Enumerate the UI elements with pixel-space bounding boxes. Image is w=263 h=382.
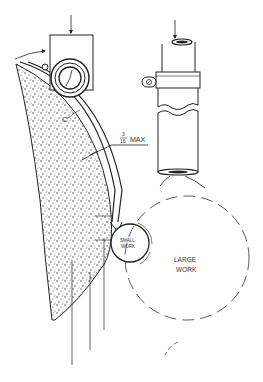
callout-c-label: C bbox=[62, 115, 68, 124]
small-work-label: SMALL bbox=[120, 238, 135, 243]
grinding-wheel-coolant-diagram: C 3 16 MAX SMALL WORK LARGE WORK bbox=[0, 0, 263, 382]
dimension-max-label: MAX bbox=[130, 136, 146, 143]
small-work-label-2: WORK bbox=[121, 244, 135, 249]
large-work-label-2: WORK bbox=[176, 266, 197, 273]
small-work-circle bbox=[111, 224, 149, 262]
rotation-arrow bbox=[165, 342, 178, 355]
dimension-fraction-denominator: 16 bbox=[120, 138, 126, 144]
grinding-wheel bbox=[16, 64, 112, 320]
large-work-label: LARGE bbox=[174, 256, 197, 263]
airflow-arrow bbox=[15, 51, 44, 59]
coolant-pipe bbox=[142, 20, 205, 188]
dimension-fraction-numerator: 3 bbox=[122, 131, 125, 137]
